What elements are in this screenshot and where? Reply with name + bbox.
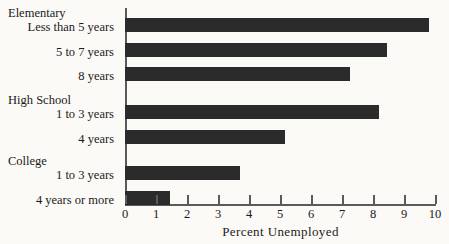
category-label-col-1-to-3-years: 1 to 3 years [56,169,114,182]
category-label-hs-1-to-3-years: 1 to 3 years [56,108,114,121]
category-label-column: Elementary Less than 5 years 5 to 7 year… [0,0,122,205]
category-label-less-than-5-years: Less than 5 years [28,21,114,34]
x-axis-tick-label: 8 [360,207,386,221]
x-axis-tick-label: 1 [143,207,169,221]
category-label-5-to-7-years: 5 to 7 years [56,46,114,59]
x-axis-tick [373,195,375,204]
bar [125,18,429,32]
x-axis-title: Percent Unemployed [125,224,436,240]
x-axis-tick-label: 9 [391,207,417,221]
group-heading-high-school: High School [8,94,71,107]
category-label-hs-4-years: 4 years [78,133,114,146]
x-axis-tick [125,195,127,204]
category-label-col-4-or-more: 4 years or more [36,194,114,207]
x-axis-tick [156,195,158,204]
x-axis-tick-label: 6 [298,207,324,221]
x-axis-tick-label: 7 [329,207,355,221]
x-axis-tick-label: 10 [422,207,448,221]
x-axis-tick-label: 2 [174,207,200,221]
bar [125,67,350,81]
bar [125,130,285,144]
bar [125,43,387,57]
category-label-8-years: 8 years [78,70,114,83]
x-axis-tick-label: 3 [205,207,231,221]
x-axis-tick [435,195,437,204]
x-axis-tick [218,195,220,204]
bar [125,166,240,180]
x-axis-tick [280,195,282,204]
x-axis-tick [404,195,406,204]
bar [125,191,170,205]
bar-chart-figure: Elementary Less than 5 years 5 to 7 year… [0,0,449,244]
x-axis-tick [342,195,344,204]
group-heading-college: College [8,155,47,168]
bar [125,105,379,119]
x-axis-tick [311,195,313,204]
x-axis-line [125,204,436,206]
x-axis-tick [249,195,251,204]
x-axis-tick-label: 4 [236,207,262,221]
group-heading-elementary: Elementary [8,7,66,20]
x-axis-tick-label: 0 [112,207,138,221]
plot-area: 012345678910 Percent Unemployed [125,0,449,244]
x-axis-tick [187,195,189,204]
x-axis-tick-label: 5 [267,207,293,221]
